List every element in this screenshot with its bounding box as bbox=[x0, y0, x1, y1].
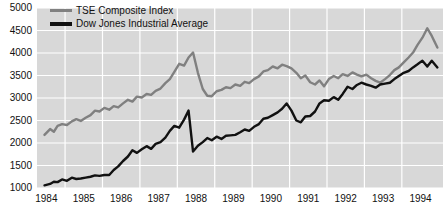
x-axis-tick-label: 1986 bbox=[105, 194, 137, 204]
legend-label: TSE Composite Index bbox=[76, 5, 173, 16]
x-axis-tick-label: 1993 bbox=[367, 194, 399, 204]
x-axis-tick-label: 1985 bbox=[68, 194, 100, 204]
x-axis-tick-label: 1988 bbox=[180, 194, 212, 204]
x-axis-tick-label: 1994 bbox=[405, 194, 437, 204]
chart-plot-area bbox=[0, 0, 443, 213]
y-axis-tick-label: 1000 bbox=[0, 183, 32, 193]
x-axis-tick-label: 1987 bbox=[143, 194, 175, 204]
y-axis-tick-label: 4500 bbox=[0, 26, 32, 36]
y-axis-tick-label: 1500 bbox=[0, 161, 32, 171]
y-axis-tick-label: 4000 bbox=[0, 48, 32, 58]
x-axis-tick-label: 1990 bbox=[255, 194, 287, 204]
x-axis-tick-label: 1984 bbox=[30, 194, 62, 204]
chart-legend: TSE Composite Index Dow Jones Industrial… bbox=[50, 5, 208, 29]
x-axis-tick-label: 1989 bbox=[217, 194, 249, 204]
stock-index-line-chart: 500045004000350030002500200015001000 198… bbox=[0, 0, 443, 213]
y-axis-tick-label: 5000 bbox=[0, 3, 32, 13]
y-axis-tick-label: 2000 bbox=[0, 138, 32, 148]
legend-item-dow-jones-industrial-average: Dow Jones Industrial Average bbox=[50, 18, 208, 29]
legend-label: Dow Jones Industrial Average bbox=[76, 18, 208, 29]
x-axis-tick-label: 1991 bbox=[292, 194, 324, 204]
legend-item-tse-composite-index: TSE Composite Index bbox=[50, 5, 208, 16]
legend-line-swatch-icon bbox=[50, 9, 72, 12]
x-axis-tick-label: 1992 bbox=[330, 194, 362, 204]
legend-line-swatch-icon bbox=[50, 22, 72, 26]
y-axis-tick-label: 2500 bbox=[0, 116, 32, 126]
y-axis-tick-label: 3500 bbox=[0, 71, 32, 81]
y-axis-tick-label: 3000 bbox=[0, 93, 32, 103]
